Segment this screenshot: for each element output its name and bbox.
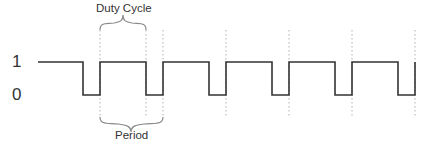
dotted-guide-lines xyxy=(100,30,415,118)
square-waveform xyxy=(38,62,415,95)
duty-cycle-label: Duty Cycle xyxy=(96,2,152,14)
duty-cycle-brace xyxy=(100,15,146,30)
level-label-high: 1 xyxy=(12,52,21,72)
pwm-diagram: 1 0 Duty Cycle Period xyxy=(0,0,437,146)
period-label: Period xyxy=(115,129,148,141)
level-label-low: 0 xyxy=(12,85,21,105)
pwm-diagram-canvas xyxy=(0,0,437,146)
